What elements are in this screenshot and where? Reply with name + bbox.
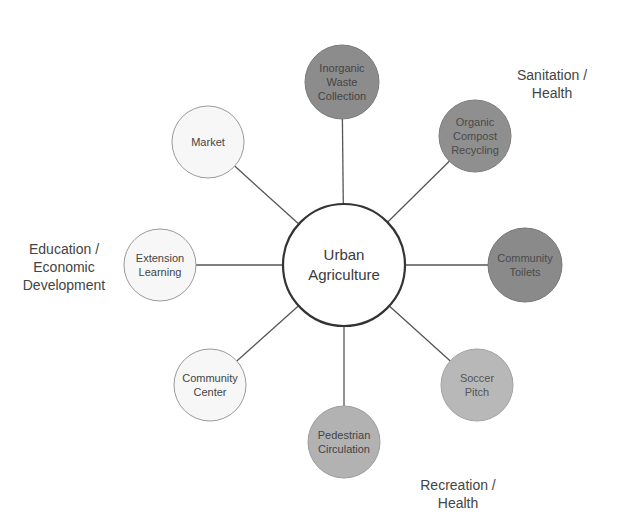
connector-community-center xyxy=(237,306,299,361)
connector-market xyxy=(235,166,299,224)
group-label-education-economic-development: Education / Economic Development xyxy=(8,240,120,294)
node-circle-organic-compost-recycling xyxy=(439,100,511,172)
node-circle-community-center xyxy=(174,349,246,421)
node-circle-community-toilets xyxy=(488,228,562,302)
connector-organic-compost-recycling xyxy=(388,161,450,222)
connector-inorganic-waste-collection xyxy=(342,119,343,204)
node-circle-extension-learning xyxy=(124,229,196,301)
node-circle-inorganic-waste-collection xyxy=(305,45,379,119)
node-circle-market xyxy=(172,106,244,178)
node-circle-soccer-pitch xyxy=(441,349,513,421)
group-label-recreation-health: Recreation / Health xyxy=(398,476,518,512)
center-node-circle xyxy=(283,204,405,326)
group-label-sanitation-health: Sanitation / Health xyxy=(497,66,607,102)
connector-soccer-pitch xyxy=(389,306,450,361)
node-circle-pedestrian-circulation xyxy=(308,406,380,478)
